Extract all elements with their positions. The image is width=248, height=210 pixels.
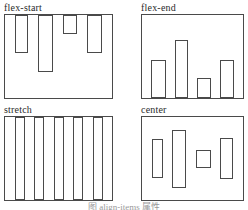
flex-item-bar — [93, 117, 103, 200]
flex-item-bar — [73, 117, 83, 200]
flex-item-bar — [175, 40, 188, 98]
flex-item-bar — [196, 150, 211, 168]
panel-box-stretch — [4, 116, 113, 201]
panel-flex-end: flex-end — [141, 1, 244, 99]
panel-label-flex-end: flex-end — [141, 1, 244, 14]
figure-caption: 图 align-items 属性 — [0, 202, 248, 210]
flex-item-bar — [34, 117, 44, 200]
flex-item-bar — [63, 15, 77, 34]
flex-item-bar — [220, 60, 234, 98]
flex-item-bar — [38, 15, 53, 72]
panel-box-center — [141, 116, 244, 201]
align-items-figure: flex-start flex-end stretch center — [4, 1, 244, 201]
flex-item-bar — [152, 139, 163, 178]
panel-box-flex-start — [4, 14, 113, 99]
flex-item-bar — [197, 78, 211, 98]
flex-item-bar — [220, 138, 233, 179]
panel-label-stretch: stretch — [4, 103, 113, 116]
flex-item-bar — [15, 117, 25, 200]
panel-label-flex-start: flex-start — [4, 1, 113, 14]
flex-item-bar — [151, 60, 166, 98]
flex-item-bar — [54, 117, 64, 200]
panel-center: center — [141, 103, 244, 201]
panel-flex-start: flex-start — [4, 1, 113, 99]
flex-item-bar — [172, 130, 186, 188]
flex-item-bar — [15, 15, 28, 53]
panel-stretch: stretch — [4, 103, 113, 201]
panel-box-flex-end — [141, 14, 244, 99]
flex-item-bar — [87, 15, 102, 53]
panel-grid: flex-start flex-end stretch center — [4, 1, 244, 201]
panel-label-center: center — [141, 103, 244, 116]
